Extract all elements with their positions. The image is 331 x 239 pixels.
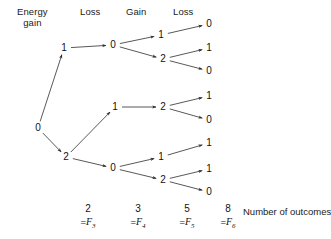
fibonacci-label: =F3	[80, 216, 95, 231]
tree-node-n-l4-a: 0	[206, 19, 212, 29]
tree-node-n-l4-b: 1	[206, 43, 212, 53]
tree-edge-n-l3-c-to-n-l4-e	[170, 109, 203, 118]
tree-node-n-l2-a: 0	[110, 40, 116, 50]
tree-edge-n-l3-e-to-n-l4-h	[170, 182, 202, 190]
stage-header-loss-2: Loss	[173, 6, 193, 17]
tree-node-n-l4-d: 1	[206, 91, 212, 101]
tree-edge-n-l3-b-to-n-l4-b	[170, 50, 202, 58]
stage-header-line1: Loss	[173, 6, 193, 17]
fibonacci-index: 4	[142, 222, 146, 230]
tree-node-n-l1-b: 2	[63, 152, 69, 162]
stage-header-energy-gain: Energy gain	[17, 6, 48, 28]
stage-header-loss-1: Loss	[80, 6, 100, 17]
tree-node-n-l3-a: 1	[158, 30, 164, 40]
tree-edge-n-l3-d-to-n-l4-f	[168, 145, 203, 155]
tree-node-n-l3-e: 2	[160, 175, 166, 185]
outcome-total-total-f4: 3=F4	[130, 203, 145, 230]
tree-edge-n-l3-e-to-n-l4-g	[170, 171, 202, 179]
outcome-count: 3	[130, 203, 145, 216]
tree-node-n-l4-g: 1	[206, 164, 212, 174]
tree-edge-n-l1-b-to-n-l2-b	[71, 112, 110, 152]
tree-edge-n-l2-a-to-n-l3-a	[120, 36, 154, 43]
stage-header-line1: Energy	[17, 6, 48, 17]
outcome-count: 5	[179, 203, 194, 216]
stage-header-line1: Loss	[80, 6, 100, 17]
tree-node-n-l1-a: 1	[61, 43, 67, 53]
stage-header-line2: gain	[17, 17, 48, 28]
tree-node-n-l4-c: 0	[206, 66, 212, 76]
outcomes-caption: Number of outcomes	[243, 206, 331, 217]
outcome-total-total-f6: 8=F6	[220, 203, 235, 230]
outcome-count: 8	[220, 203, 235, 216]
outcome-total-total-f5: 5=F5	[179, 203, 194, 230]
tree-node-n-l4-e: 0	[206, 115, 212, 125]
tree-edge-n-l2-a-to-n-l3-b	[120, 47, 157, 57]
fibonacci-label: =F5	[179, 216, 194, 231]
stage-header-line1: Gain	[126, 6, 146, 17]
tree-edge-n-root-to-n-l1-b	[43, 133, 61, 152]
tree-node-n-l4-h: 0	[206, 187, 212, 197]
tree-edge-n-l1-b-to-n-l2-c	[73, 159, 106, 167]
tree-node-n-l3-b: 2	[160, 54, 166, 64]
fibonacci-label: =F6	[220, 216, 235, 231]
outcome-count: 2	[80, 203, 95, 216]
tree-edge-n-l1-a-to-n-l2-a	[71, 45, 106, 47]
stage-header-gain-1: Gain	[126, 6, 146, 17]
fibonacci-index: 6	[232, 222, 236, 230]
tree-edge-n-l2-c-to-n-l3-e	[120, 170, 156, 179]
tree-edge-n-l3-c-to-n-l4-d	[170, 98, 202, 106]
tree-node-n-l3-c: 2	[160, 102, 166, 112]
tree-node-n-l3-d: 1	[158, 152, 164, 162]
tree-edge-n-l3-b-to-n-l4-c	[170, 61, 202, 69]
tree-node-n-l4-f: 1	[206, 138, 212, 148]
fibonacci-index: 3	[92, 222, 96, 230]
tree-node-n-l2-c: 0	[110, 163, 116, 173]
tree-edge-n-l3-a-to-n-l4-a	[168, 26, 202, 34]
tree-edge-n-l2-c-to-n-l3-d	[120, 159, 154, 167]
fibonacci-index: 5	[191, 222, 195, 230]
fibonacci-label: =F4	[130, 216, 145, 231]
outcome-total-total-f3: 2=F3	[80, 203, 95, 230]
tree-node-n-root: 0	[35, 123, 41, 133]
tree-edge-n-root-to-n-l1-a	[40, 55, 62, 122]
tree-node-n-l2-b: 1	[112, 102, 118, 112]
